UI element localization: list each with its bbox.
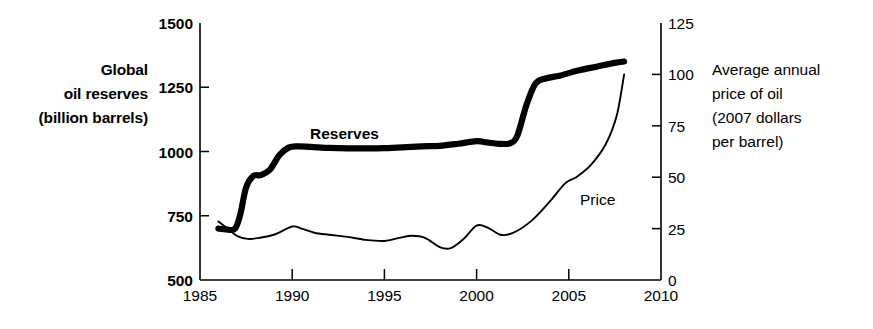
series-annotation-price: Price (580, 191, 615, 208)
x-axis-tick-label: 1990 (275, 287, 310, 304)
x-axis-tick-label: 2005 (552, 287, 586, 304)
right-axis-tick-label: 25 (668, 221, 685, 238)
axis-ticks (200, 74, 661, 280)
data-series (218, 62, 624, 249)
right-axis-tick-label: 100 (668, 66, 694, 83)
x-axis-tick-label: 2000 (459, 287, 494, 304)
axis-tick-labels: 5007501000125015000255075100125198519901… (159, 15, 695, 304)
x-axis-tick-label: 1995 (367, 287, 401, 304)
right-axis-tick-label: 125 (668, 15, 694, 32)
series-line-price (218, 74, 624, 248)
left-axis-tick-label: 1500 (159, 15, 193, 32)
oil-reserves-price-chart: Global oil reserves (billion barrels) Av… (0, 0, 873, 329)
x-axis-tick-label: 1985 (183, 287, 217, 304)
series-line-reserves (218, 62, 624, 230)
series-annotation-reserves: Reserves (310, 125, 379, 142)
series-annotations: ReservesPrice (310, 125, 615, 208)
chart-canvas: 5007501000125015000255075100125198519901… (0, 0, 873, 329)
right-axis-tick-label: 75 (668, 118, 685, 135)
left-axis-tick-label: 750 (167, 208, 193, 225)
left-axis-tick-label: 1000 (159, 144, 193, 161)
x-axis-tick-label: 2010 (644, 287, 679, 304)
right-axis-tick-label: 50 (668, 169, 686, 186)
left-axis-tick-label: 1250 (159, 79, 193, 96)
